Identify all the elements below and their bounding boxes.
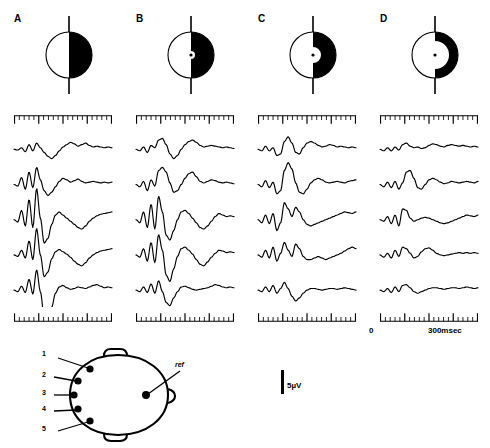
waveform-trace (258, 243, 356, 262)
waveform-trace (258, 203, 356, 231)
electrode-label-1: 1 (42, 350, 46, 357)
trace-group-c (254, 131, 362, 307)
waveform-trace (380, 209, 478, 226)
waveform-trace (258, 137, 356, 156)
waveform-trace (258, 282, 356, 301)
waveform-trace (136, 281, 234, 306)
scale-bar-mark (281, 370, 284, 394)
stimulus-d (404, 16, 466, 94)
electrode-dot-4 (74, 405, 81, 412)
head-outline-graphic (28, 345, 218, 445)
time-ruler-bottom-b (136, 311, 234, 322)
waveform-trace (14, 189, 112, 243)
stimulus-cell-b: B (122, 0, 244, 105)
stimulus-a-graphic (38, 16, 100, 94)
waveform-trace (14, 229, 112, 277)
waveform-trace (14, 270, 112, 307)
amplitude-scale-bar: 5µV (276, 368, 336, 402)
waveform-trace (136, 235, 234, 281)
waveform-trace (136, 138, 234, 158)
time-axis-start-label: 0 (369, 326, 373, 335)
erp-figure: A B C (0, 0, 490, 448)
stimulus-cell-d: D (366, 0, 488, 105)
waveform-panel-d (366, 105, 488, 340)
time-ruler-bottom-d (380, 311, 478, 322)
electrode-dot-1 (86, 365, 93, 372)
electrode-label-3: 3 (42, 389, 46, 396)
time-ruler-top-d (380, 115, 478, 126)
stimulus-cell-a: A (0, 0, 122, 105)
waveform-trace (380, 247, 478, 258)
time-ruler-top-a (14, 115, 112, 126)
panel-letter-c: C (258, 13, 266, 24)
panel-letter-a: A (14, 13, 22, 24)
electrode-label-5: 5 (42, 425, 46, 432)
waveform-panel-c (244, 105, 366, 340)
fixation-dot-c (311, 53, 314, 56)
panel-letter-b: B (136, 13, 144, 24)
electrode-dot-5 (86, 417, 93, 424)
waveform-trace (380, 170, 478, 189)
stimulus-b-graphic (160, 16, 222, 94)
trace-group-a (10, 131, 118, 307)
reference-electrode-label: ref (175, 361, 184, 368)
stimulus-a (38, 16, 100, 94)
panel-letter-d: D (380, 13, 388, 24)
stimulus-c-graphic (282, 16, 344, 94)
waveform-trace (14, 168, 112, 196)
scale-bar-label: 5µV (287, 381, 301, 390)
fixation-dot-d (433, 53, 436, 56)
time-ruler-bottom-c (258, 311, 356, 322)
time-ruler-bottom-a (14, 311, 112, 322)
fixation-dot-b (189, 53, 192, 56)
stimulus-c (282, 16, 344, 94)
electrode-label-4: 4 (42, 405, 46, 412)
time-ruler-top-b (136, 115, 234, 126)
waveform-trace (380, 285, 478, 294)
time-axis-labels: 0 300msec (0, 326, 490, 342)
waveform-trace (258, 163, 356, 194)
time-ruler-top-c (258, 115, 356, 126)
waveform-panel-b (122, 105, 244, 340)
stimulus-row: A B C (0, 0, 490, 105)
waveform-panel-a (0, 105, 122, 340)
waveform-row (0, 105, 490, 340)
waveform-trace (136, 197, 234, 240)
stimulus-cell-c: C (244, 0, 366, 105)
electrode-dot-ref (142, 391, 150, 399)
waveform-trace (136, 167, 234, 192)
electrode-label-2: 2 (42, 371, 46, 378)
waveform-trace (14, 142, 112, 158)
stimulus-d-graphic (404, 16, 466, 94)
trace-group-b (132, 131, 240, 307)
electrode-head-diagram: 1 2 3 4 5 ref (28, 345, 218, 445)
time-axis-end-label: 300msec (428, 326, 462, 335)
waveform-trace (380, 143, 478, 151)
stimulus-b (160, 16, 222, 94)
trace-group-d (376, 131, 484, 307)
